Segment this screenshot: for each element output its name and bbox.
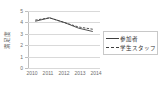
y-axis-tick-mark bbox=[25, 22, 28, 23]
chart-legend: 参加者学生スタッフ bbox=[103, 31, 158, 55]
y-axis-tick-label: 5 bbox=[14, 9, 23, 14]
y-axis-tick-mark bbox=[25, 57, 28, 58]
y-axis-tick-mark bbox=[25, 11, 28, 12]
x-axis-tick-label: 2013 bbox=[72, 70, 88, 76]
y-axis-tick-label: 2 bbox=[14, 43, 23, 48]
y-axis-tick-mark bbox=[25, 68, 28, 69]
y-axis-tick-label: 3 bbox=[14, 31, 23, 36]
legend-swatch-dashed bbox=[106, 44, 119, 51]
x-axis-tick-label: 2014 bbox=[88, 70, 104, 76]
x-axis-tick-label: 2011 bbox=[40, 70, 56, 76]
legend-swatch-solid bbox=[106, 35, 119, 42]
y-axis-title: 満足度 bbox=[2, 17, 12, 63]
line-chart: 満足度 543210 20102011201220132014 参加者学生スタッ… bbox=[0, 0, 162, 88]
legend-item-label: 学生スタッフ bbox=[119, 44, 156, 52]
legend-item[interactable]: 学生スタッフ bbox=[106, 43, 155, 52]
y-axis-tick-label: 4 bbox=[14, 20, 23, 25]
y-axis-title-text: 満足度 bbox=[3, 31, 11, 49]
x-axis-tick-label: 2012 bbox=[56, 70, 72, 76]
legend-item-label: 参加者 bbox=[119, 35, 138, 43]
plot-area bbox=[28, 11, 100, 68]
x-axis-tick-labels: 20102011201220132014 bbox=[24, 70, 104, 76]
y-axis-tick-labels: 543210 bbox=[14, 11, 23, 68]
x-axis-tick-label: 2010 bbox=[24, 70, 40, 76]
series-layer bbox=[28, 11, 100, 68]
series-line bbox=[35, 18, 93, 32]
y-axis-tick-label: 0 bbox=[14, 66, 23, 71]
y-axis-tick-mark bbox=[25, 34, 28, 35]
y-axis-tick-mark bbox=[25, 45, 28, 46]
gridline bbox=[28, 68, 100, 69]
legend-item[interactable]: 参加者 bbox=[106, 34, 155, 43]
y-axis-tick-label: 1 bbox=[14, 54, 23, 59]
